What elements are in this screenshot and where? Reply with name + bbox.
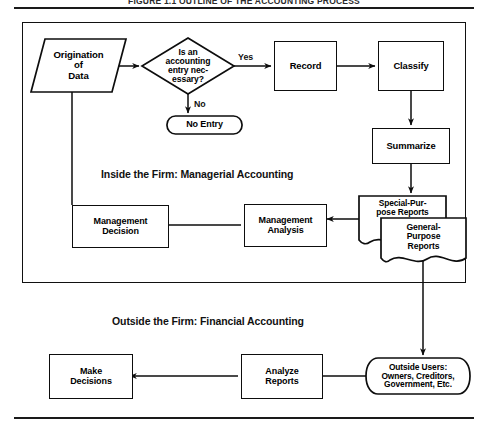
node-no-entry-label: No Entry (167, 116, 242, 134)
node-summarize: Summarize (372, 128, 450, 164)
node-make-decisions-label: Make Decisions (50, 355, 132, 398)
node-origination: Origination of Data (31, 39, 126, 92)
node-outside-users: Outside Users: Owners, Creditors, Govern… (366, 358, 470, 394)
node-special-purpose-reports: Special-Pur- pose Reports (359, 197, 446, 219)
section-label-inside-firm: Inside the Firm: Managerial Accounting (101, 168, 293, 180)
node-make-decisions: Make Decisions (49, 354, 133, 399)
node-management-analysis: Management Analysis (244, 204, 327, 247)
node-decision: Is an accounting entry nec- essary? (152, 42, 224, 90)
edge-label-yes: Yes (238, 52, 253, 62)
node-management-analysis-label: Management Analysis (245, 205, 326, 246)
node-analyze-reports-label: Analyze Reports (242, 355, 322, 398)
node-decision-label: Is an accounting entry nec- essary? (152, 42, 224, 90)
node-classify: Classify (378, 41, 444, 91)
node-outside-users-label: Outside Users: Owners, Creditors, Govern… (366, 358, 470, 394)
node-origination-label: Origination of Data (31, 39, 126, 92)
node-summarize-label: Summarize (373, 129, 449, 163)
node-record: Record (274, 41, 337, 91)
section-label-outside-firm: Outside the Firm: Financial Accounting (112, 315, 304, 327)
node-general-purpose-reports-label: General- Purpose Reports (381, 220, 466, 254)
figure-canvas: FIGURE 1.1 OUTLINE OF THE ACCOUNTING PRO… (0, 0, 488, 429)
edge-label-no: No (194, 99, 206, 109)
node-management-decision: Management Decision (72, 205, 169, 248)
node-classify-label: Classify (379, 42, 443, 90)
node-management-decision-label: Management Decision (73, 206, 168, 247)
node-special-purpose-reports-label: Special-Pur- pose Reports (359, 197, 446, 219)
node-analyze-reports: Analyze Reports (241, 354, 323, 399)
node-general-purpose-reports: General- Purpose Reports (381, 220, 466, 254)
node-record-label: Record (275, 42, 336, 90)
node-no-entry: No Entry (167, 116, 242, 134)
